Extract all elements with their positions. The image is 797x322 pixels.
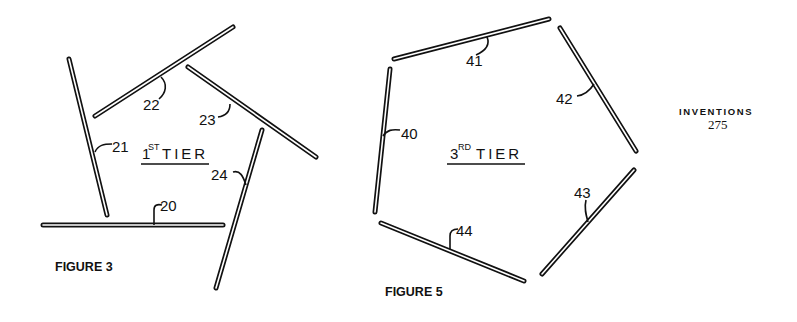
- figure-5: 40 41 42 43 44 3 RD TIER FIGURE 5: [375, 19, 636, 299]
- svg-text:RD: RD: [458, 142, 471, 152]
- patent-figures: 21 22 23 24 20 1 ST TIER FIGURE 3: [0, 0, 797, 322]
- part-label-41: 41: [466, 52, 483, 69]
- leader-42: [577, 84, 594, 96]
- part-label-23: 23: [199, 111, 216, 128]
- figure-3: 21 22 23 24 20 1 ST TIER FIGURE 3: [43, 27, 316, 288]
- part-label-42: 42: [556, 90, 573, 107]
- part-label-43: 43: [574, 184, 591, 201]
- leader-43: [585, 200, 588, 222]
- leader-21: [95, 144, 112, 152]
- svg-text:TIER: TIER: [476, 145, 522, 162]
- part-label-24: 24: [211, 166, 228, 183]
- part-label-22: 22: [143, 96, 160, 113]
- figure-3-caption: FIGURE 3: [55, 260, 113, 274]
- leader-23: [218, 104, 230, 117]
- tier-title-3rd: 3 RD TIER: [447, 142, 525, 164]
- tier-title-1st: 1 ST TIER: [141, 142, 209, 164]
- leader-22: [159, 77, 165, 99]
- part-label-21: 21: [112, 138, 129, 155]
- part-label-44: 44: [456, 222, 473, 239]
- rod-44: [381, 223, 524, 281]
- figure-5-caption: FIGURE 5: [385, 285, 443, 299]
- rod-22: [95, 27, 233, 116]
- svg-text:ST: ST: [148, 142, 160, 152]
- rod-40: [375, 69, 390, 212]
- part-label-20: 20: [160, 197, 177, 214]
- rod-24: [216, 130, 262, 288]
- svg-text:TIER: TIER: [162, 145, 208, 162]
- rod-21: [69, 59, 107, 215]
- part-label-40: 40: [401, 125, 418, 142]
